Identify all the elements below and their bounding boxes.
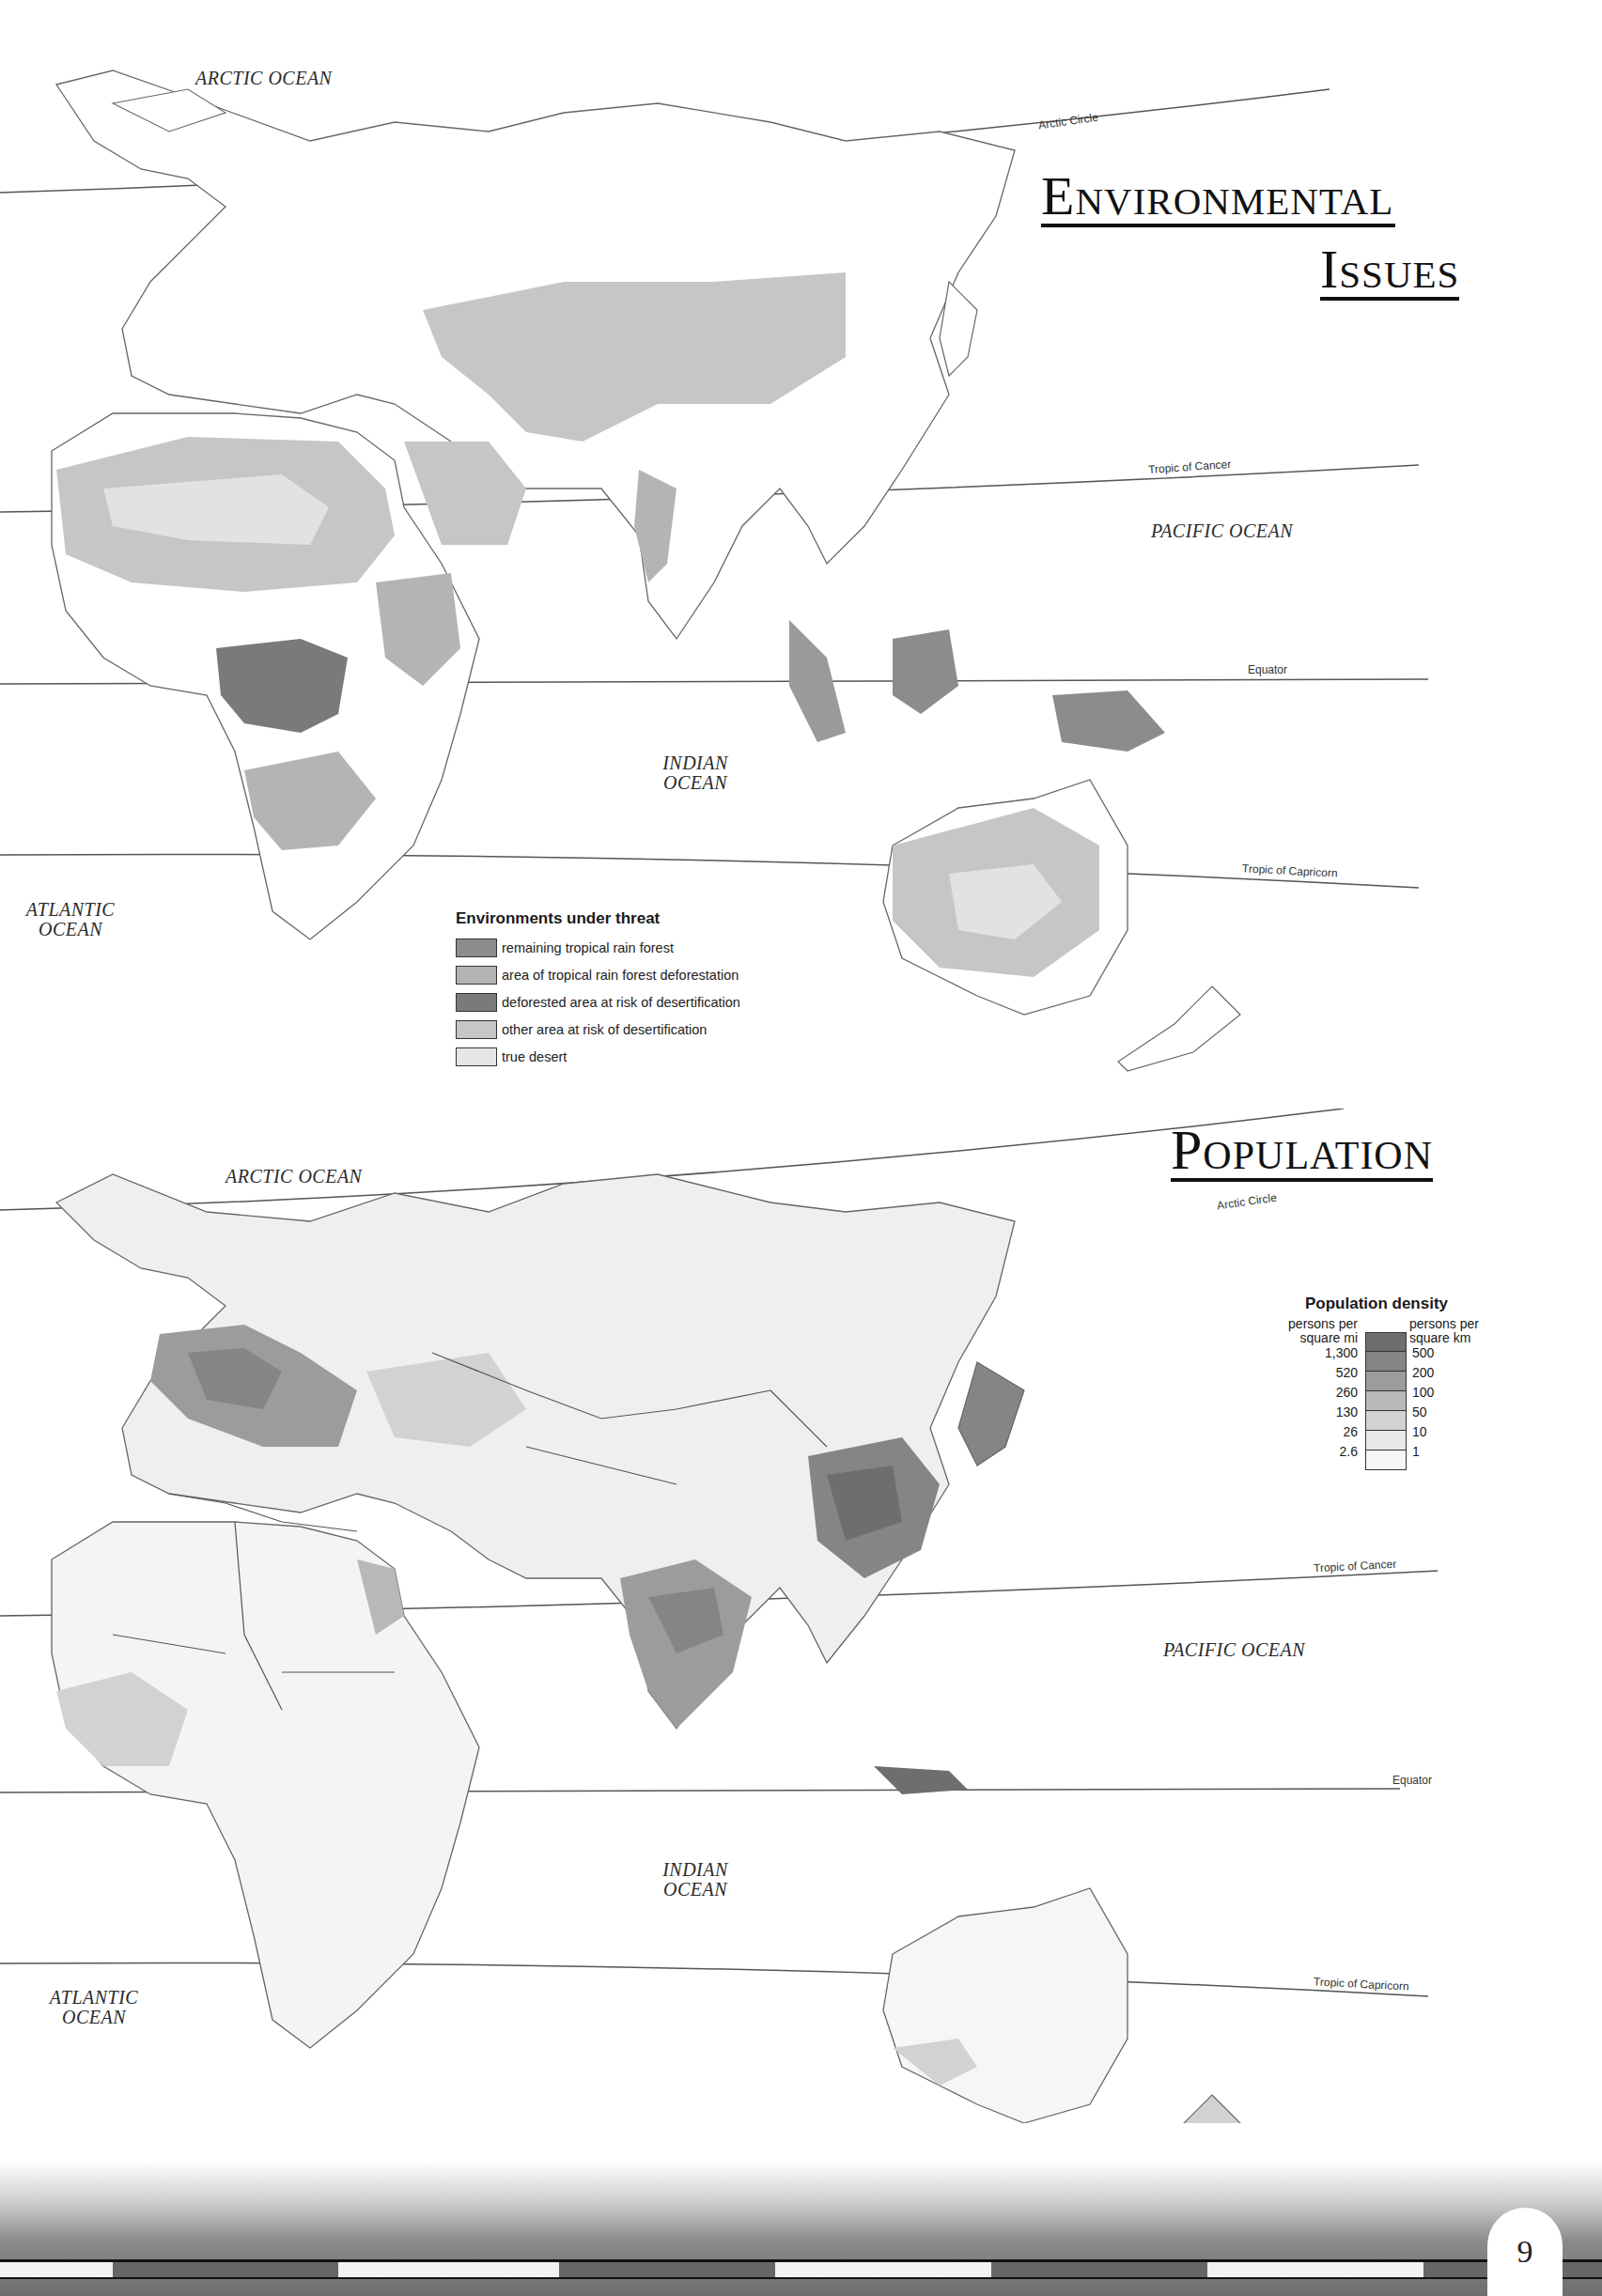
indian-ocean-line1: INDIAN (648, 1860, 742, 1880)
break-sq-mi: 2.6 (1268, 1444, 1358, 1459)
stripe-segment (0, 2262, 113, 2277)
break-sq-km: 50 (1412, 1404, 1427, 1419)
legend-swatch (456, 1047, 497, 1066)
density-swatch (1365, 1451, 1407, 1470)
environmental-issues-map: Environmental Issues ARCTIC OCEAN PACIFI… (0, 0, 1602, 1109)
break-sq-mi: 130 (1268, 1404, 1358, 1419)
break-sq-mi: 26 (1268, 1424, 1358, 1439)
break-sq-km: 10 (1412, 1424, 1427, 1439)
legend-item-label: deforested area at risk of desertificati… (502, 995, 740, 1010)
break-sq-km: 100 (1412, 1385, 1434, 1400)
equator-label: Equator (1392, 1774, 1432, 1787)
population-density-legend: Population density persons per square mi… (1268, 1295, 1522, 1520)
legend-item-rain-forest-deforestation: area of tropical rain forest deforestati… (456, 961, 740, 988)
environments-legend-title: Environments under threat (456, 909, 740, 928)
legend-item-label: true desert (502, 1049, 567, 1064)
environmental-issues-title-line2: Issues (1320, 242, 1459, 301)
legend-swatch (456, 939, 497, 957)
indian-ocean-line1: INDIAN (648, 753, 742, 773)
atlantic-ocean-line2: OCEAN (38, 2008, 150, 2027)
arctic-ocean-label: ARCTIC OCEAN (195, 69, 332, 88)
atlantic-ocean-line2: OCEAN (14, 920, 127, 939)
unit-line: persons per (1268, 1317, 1358, 1331)
legend-item-label: area of tropical rain forest deforestati… (502, 968, 739, 983)
density-swatch (1365, 1332, 1407, 1352)
legend-item-true-desert: true desert (456, 1043, 740, 1070)
density-swatch (1365, 1391, 1407, 1411)
density-swatch (1365, 1431, 1407, 1451)
legend-item-label: other area at risk of desertification (502, 1022, 707, 1037)
pacific-ocean-label: PACIFIC OCEAN (1163, 1640, 1305, 1660)
indian-ocean-label: INDIAN OCEAN (648, 753, 742, 793)
break-sq-mi: 520 (1268, 1365, 1358, 1380)
atlantic-ocean-line1: ATLANTIC (38, 1988, 150, 2008)
break-sq-mi: 260 (1268, 1385, 1358, 1400)
density-scale: 1,300 500 520 200 260 100 130 50 26 10 2… (1268, 1332, 1522, 1520)
break-sq-km: 1 (1412, 1444, 1420, 1459)
legend-item-deforested-desertification: deforested area at risk of desertificati… (456, 988, 740, 1016)
population-title: Population (1171, 1122, 1433, 1182)
legend-swatch (456, 966, 497, 985)
stripe-segment (775, 2262, 991, 2277)
stripe-segment (1207, 2262, 1423, 2277)
equator-label: Equator (1248, 663, 1287, 676)
density-color-bar (1365, 1332, 1407, 1470)
environments-legend: Environments under threat remaining trop… (456, 909, 740, 1070)
unit-line: persons per (1409, 1317, 1494, 1331)
legend-item-remaining-rain-forest: remaining tropical rain forest (456, 934, 740, 961)
legend-item-other-desertification: other area at risk of desertification (456, 1016, 740, 1043)
legend-swatch (456, 1020, 497, 1039)
legend-swatch (456, 993, 497, 1012)
legend-item-label: remaining tropical rain forest (502, 940, 674, 955)
break-sq-mi: 1,300 (1268, 1345, 1358, 1360)
atlantic-ocean-label: ATLANTIC OCEAN (14, 900, 127, 939)
atlantic-ocean-line1: ATLANTIC (14, 900, 127, 920)
atlantic-ocean-label: ATLANTIC OCEAN (38, 1988, 150, 2027)
density-swatch (1365, 1411, 1407, 1431)
stripe-segment (113, 2262, 338, 2277)
density-swatch (1365, 1372, 1407, 1391)
arctic-ocean-label: ARCTIC OCEAN (226, 1167, 362, 1187)
page-number: 9 (1487, 2234, 1563, 2270)
indian-ocean-line2: OCEAN (648, 773, 742, 793)
population-map: Population ARCTIC OCEAN PACIFIC OCEAN IN… (0, 1109, 1602, 2123)
indian-ocean-label: INDIAN OCEAN (648, 1860, 742, 1900)
density-swatch (1365, 1352, 1407, 1372)
indian-ocean-line2: OCEAN (648, 1880, 742, 1900)
stripe-segment (559, 2262, 775, 2277)
environmental-issues-title-line1: Environmental (1041, 169, 1395, 227)
population-density-legend-title: Population density (1268, 1295, 1485, 1313)
break-sq-km: 200 (1412, 1365, 1434, 1380)
footer-stripe (0, 2259, 1602, 2279)
stripe-segment (338, 2262, 559, 2277)
break-sq-km: 500 (1412, 1345, 1434, 1360)
pacific-ocean-label: PACIFIC OCEAN (1151, 521, 1293, 541)
stripe-segment (991, 2262, 1207, 2277)
population-map-graphic (0, 1109, 1602, 2123)
page-number-tab: 9 (1487, 2208, 1563, 2296)
